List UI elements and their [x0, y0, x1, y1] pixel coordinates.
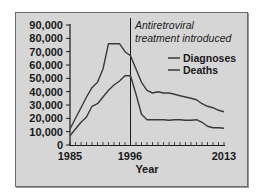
annotation-line2: treatment introduced	[135, 32, 232, 44]
y-tick-label: 30,000	[29, 99, 63, 111]
y-tick-label: 50,000	[29, 72, 63, 84]
x-axis-title: Year	[135, 163, 159, 175]
y-tick-label: 20,000	[29, 112, 63, 124]
x-tick-label-start: 1985	[58, 150, 82, 162]
y-tick-label: 10,000	[29, 126, 63, 138]
legend-label-deaths: Deaths	[183, 64, 218, 76]
annotation-line1: Antiretroviral	[134, 19, 195, 31]
y-tick-label: 40,000	[29, 86, 63, 98]
y-tick-label: 80,000	[29, 32, 63, 44]
y-tick-label: 60,000	[29, 59, 63, 71]
y-tick-label: 70,000	[29, 46, 63, 58]
line-chart: 010,00020,00030,00040,00050,00060,00070,…	[0, 0, 260, 194]
x-tick-label-end: 2013	[212, 150, 236, 162]
legend-label-diagnoses: Diagnoses	[183, 52, 236, 64]
y-axis-labels: 010,00020,00030,00040,00050,00060,00070,…	[29, 19, 63, 151]
x-tick-label-mid: 1996	[118, 150, 142, 162]
legend: Diagnoses Deaths	[168, 52, 236, 76]
y-tick-label: 90,000	[29, 19, 63, 31]
x-axis-ticks	[70, 142, 224, 145]
deaths-line	[70, 76, 224, 136]
